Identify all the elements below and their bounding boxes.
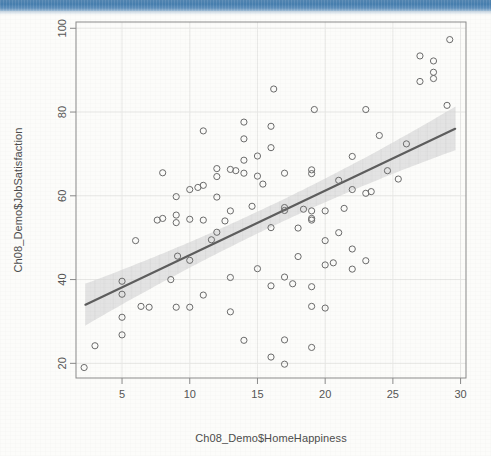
x-axis-ticks: 51015202530: [119, 378, 467, 400]
scatter-point: [222, 218, 228, 224]
scatter-point: [368, 189, 374, 195]
y-axis-ticks: 20406080100: [56, 19, 76, 369]
scatter-point: [200, 128, 206, 134]
scatter-point: [309, 344, 315, 350]
scatter-point: [154, 217, 160, 223]
scatter-point: [146, 304, 152, 310]
scatter-point: [132, 238, 138, 244]
scatter-point: [447, 36, 453, 42]
y-tick-label: 20: [56, 357, 68, 369]
scatter-point: [268, 123, 274, 129]
x-axis-title: Ch08_Demo$HomeHappiness: [195, 432, 347, 444]
scatter-point: [268, 145, 274, 151]
scatter-point: [349, 246, 355, 252]
scatter-point: [430, 58, 436, 64]
x-tick-label: 5: [119, 388, 125, 400]
scatter-point: [268, 354, 274, 360]
y-tick-label: 40: [56, 273, 68, 285]
scatter-point: [290, 281, 296, 287]
x-tick-label: 30: [454, 388, 466, 400]
scatter-point: [309, 284, 315, 290]
x-tick-label: 20: [319, 388, 331, 400]
scatter-point: [444, 102, 450, 108]
scatter-point: [173, 220, 179, 226]
scatter-point: [160, 170, 166, 176]
scatter-points: [81, 36, 453, 370]
y-tick-label: 60: [56, 190, 68, 202]
scatter-point: [227, 208, 233, 214]
scatter-point: [200, 292, 206, 298]
scatter-point: [214, 165, 220, 171]
scatter-point: [138, 303, 144, 309]
scatter-point: [200, 217, 206, 223]
scatter-point: [241, 170, 247, 176]
scatter-point: [376, 132, 382, 138]
scatter-point: [417, 78, 423, 84]
scatter-point: [295, 253, 301, 259]
scatter-point: [281, 337, 287, 343]
scatter-point: [260, 181, 266, 187]
scatter-point: [395, 176, 401, 182]
plot-gridlines: [76, 22, 466, 378]
scatter-point: [241, 157, 247, 163]
scatter-point: [295, 225, 301, 231]
y-axis-title: Ch08_Demo$JobSatisfaction: [12, 128, 24, 273]
scatter-point: [173, 304, 179, 310]
scatter-point: [81, 364, 87, 370]
scatter-point: [309, 208, 315, 214]
scatter-point: [271, 86, 277, 92]
scatter-point: [309, 303, 315, 309]
plot-frame: [76, 22, 466, 378]
scatter-point: [227, 309, 233, 315]
plot-canvas: 51015202530 20406080100 Ch08_Demo$HomeHa…: [0, 0, 491, 456]
regression-line: [85, 129, 455, 305]
x-tick-label: 25: [387, 388, 399, 400]
scatter-point: [241, 337, 247, 343]
y-tick-label: 100: [56, 19, 68, 37]
scanned-page: 51015202530 20406080100 Ch08_Demo$HomeHa…: [0, 0, 491, 456]
scatter-point: [330, 260, 336, 266]
scatter-plot-figure: 51015202530 20406080100 Ch08_Demo$HomeHa…: [0, 0, 491, 456]
scatter-point: [309, 167, 315, 173]
scatter-point: [241, 119, 247, 125]
scatter-point: [241, 136, 247, 142]
scatter-point: [349, 153, 355, 159]
scatter-point: [249, 203, 255, 209]
scatter-point: [173, 194, 179, 200]
scatter-point: [336, 230, 342, 236]
scatter-point: [195, 184, 201, 190]
scatter-point: [281, 170, 287, 176]
x-tick-label: 10: [184, 388, 196, 400]
scatter-point: [173, 212, 179, 218]
scatter-point: [363, 258, 369, 264]
scatter-point: [349, 266, 355, 272]
scatter-point: [341, 205, 347, 211]
scatter-point: [417, 53, 423, 59]
x-tick-label: 15: [251, 388, 263, 400]
scatter-point: [214, 194, 220, 200]
scatter-point: [92, 343, 98, 349]
scatter-point: [268, 283, 274, 289]
scatter-point: [430, 69, 436, 75]
scatter-point: [281, 361, 287, 367]
scatter-point: [214, 173, 220, 179]
y-tick-label: 80: [56, 106, 68, 118]
scatter-point: [430, 75, 436, 81]
